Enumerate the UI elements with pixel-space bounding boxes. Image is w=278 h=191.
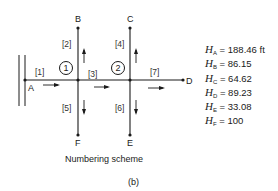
flow-arrow-pipe-3 xyxy=(94,85,110,89)
pipe-4-label: [4] xyxy=(115,39,124,49)
head-value-f: HF = 100 xyxy=(205,115,265,129)
flow-arrow-pipe-5 xyxy=(82,100,86,115)
flow-arrow-pipe-1 xyxy=(43,83,60,87)
node-a-label: A xyxy=(28,83,34,93)
flow-arrow-pipe-2 xyxy=(82,48,86,63)
head-values-list: HA = 188.46 ft HB = 86.15 HC = 64.62 HD … xyxy=(205,44,265,130)
node-b-dot xyxy=(76,26,79,29)
flow-arrow-pipe-7 xyxy=(148,86,165,90)
panel-label: (b) xyxy=(128,177,139,187)
pipe-2-label: [2] xyxy=(62,39,71,49)
node-e-label: E xyxy=(127,138,133,148)
junction-1-label: 1 xyxy=(63,63,68,73)
node-c-dot xyxy=(128,26,131,29)
node-d-label: D xyxy=(186,76,193,86)
head-value-c: HC = 64.62 xyxy=(205,73,265,87)
head-value-e: HE = 33.08 xyxy=(205,101,265,115)
node-d-dot xyxy=(181,78,184,81)
junction-1-dot xyxy=(76,78,79,81)
flow-arrow-pipe-4 xyxy=(134,48,138,63)
node-a-dot xyxy=(23,78,26,81)
head-value-a: HA = 188.46 ft xyxy=(205,44,265,58)
pipe-7-label: [7] xyxy=(150,67,159,77)
flow-arrow-pipe-6 xyxy=(134,100,138,115)
node-f-dot xyxy=(76,133,79,136)
figure-caption: Numbering scheme xyxy=(65,154,143,164)
junction-2-label: 2 xyxy=(115,63,120,73)
pipe-1-label: [1] xyxy=(35,67,44,77)
node-b-label: B xyxy=(75,14,81,24)
junction-2-dot xyxy=(128,78,131,81)
pipe-3-label: [3] xyxy=(88,69,97,79)
head-value-d: HD = 89.23 xyxy=(205,87,265,101)
pipe-6-label: [6] xyxy=(115,103,124,113)
node-f-label: F xyxy=(75,138,81,148)
pipe-5-label: [5] xyxy=(62,103,71,113)
node-e-dot xyxy=(128,133,131,136)
node-c-label: C xyxy=(127,14,134,24)
head-value-b: HB = 86.15 xyxy=(205,58,265,72)
